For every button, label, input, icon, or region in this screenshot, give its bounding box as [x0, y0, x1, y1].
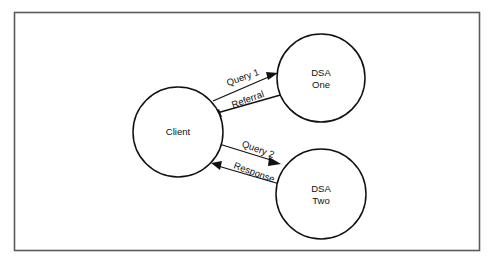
diagram-canvas: Client DSA One DSA Two Query 1 Referral …: [0, 0, 496, 263]
dsa-one-label-line1: DSA: [311, 67, 331, 78]
dsa-one-label-line2: One: [312, 79, 330, 90]
diagram-svg: Client DSA One DSA Two Query 1 Referral …: [0, 0, 496, 263]
outer-border: [15, 13, 480, 251]
node-dsa-two[interactable]: DSA Two: [276, 149, 366, 239]
node-dsa-one[interactable]: DSA One: [277, 34, 365, 122]
node-client[interactable]: Client: [133, 87, 223, 177]
dsa-two-label-line2: Two: [312, 195, 329, 206]
client-label: Client: [166, 126, 191, 137]
dsa-two-label-line1: DSA: [311, 183, 331, 194]
